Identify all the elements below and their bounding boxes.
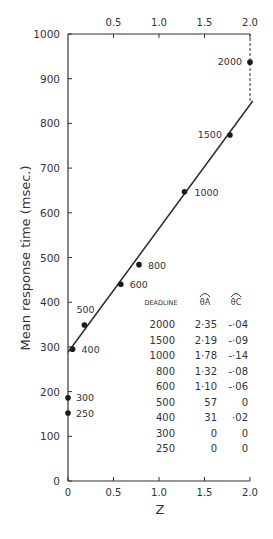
axes: 0100200300400500600700800900100000.51.01…	[33, 17, 258, 498]
x-tick-label: 0.5	[106, 487, 122, 498]
hat-icon	[200, 294, 210, 298]
table-cell-theta-a: 0	[211, 443, 217, 454]
x-tick-label: 2.0	[242, 487, 258, 498]
table-cell-theta-a: 2·35	[195, 319, 217, 330]
table-cell-theta-c: 0	[242, 428, 248, 439]
x-tick-label: 1.0	[151, 487, 167, 498]
table-cell-theta-a: 57	[204, 397, 217, 408]
point-label: 400	[82, 344, 100, 355]
table-cell-theta-c: 0	[242, 397, 248, 408]
table-cell-deadline: 500	[156, 397, 175, 408]
y-tick-label: 200	[40, 386, 60, 398]
data-point	[70, 346, 76, 352]
y-tick-label: 1000	[33, 28, 60, 40]
table-cell-theta-c: -·04	[228, 319, 248, 330]
table-cell-theta-c: -·08	[228, 366, 248, 377]
table-cell-theta-c: -·14	[228, 350, 248, 361]
table-cell-theta-a: 1·32	[195, 366, 217, 377]
point-label: 1500	[198, 129, 222, 140]
y-tick-label: 500	[40, 252, 60, 264]
table-cell-theta-a: 0	[211, 428, 217, 439]
data-point	[118, 282, 124, 288]
top-x-tick-label: 2.0	[242, 17, 258, 28]
point-label: 800	[148, 260, 166, 271]
y-tick-label: 900	[40, 73, 60, 85]
point-label: 300	[76, 392, 94, 403]
table-header-theta: θA	[200, 298, 211, 307]
point-label: 2000	[218, 56, 242, 67]
table-cell-deadline: 400	[156, 412, 175, 423]
table-cell-deadline: 1500	[150, 335, 175, 346]
table-header-deadline: DEADLINE	[144, 299, 177, 307]
table-cell-theta-a: 31	[204, 412, 217, 423]
x-axis-label: Z	[156, 502, 165, 517]
estimates-table: DEADLINEθAθC20002·35-·0415002·19-·091000…	[144, 294, 248, 455]
response-time-chart: 0100200300400500600700800900100000.51.01…	[0, 0, 273, 539]
top-x-tick-label: 1.0	[151, 17, 167, 28]
top-x-tick-label: 1.5	[197, 17, 213, 28]
x-tick-label: 1.5	[197, 487, 213, 498]
table-cell-deadline: 300	[156, 428, 175, 439]
y-tick-label: 800	[40, 117, 60, 129]
data-point	[247, 59, 253, 65]
table-cell-theta-c: -·09	[228, 335, 248, 346]
table-cell-deadline: 2000	[150, 319, 175, 330]
table-cell-deadline: 600	[156, 381, 175, 392]
regression-line	[68, 101, 253, 352]
data-point	[65, 395, 71, 401]
y-tick-label: 600	[40, 207, 60, 219]
table-cell-deadline: 800	[156, 366, 175, 377]
y-tick-label: 100	[40, 430, 60, 442]
point-label: 250	[76, 408, 94, 419]
hat-icon	[231, 294, 241, 298]
data-point	[227, 132, 233, 138]
top-x-tick-label: 0.5	[106, 17, 122, 28]
point-label: 600	[130, 279, 148, 290]
y-tick-label: 300	[40, 341, 60, 353]
table-cell-theta-a: 2·19	[195, 335, 217, 346]
data-point	[136, 262, 142, 268]
table-cell-deadline: 1000	[150, 350, 175, 361]
x-tick-label: 0	[65, 487, 71, 498]
y-axis-label: Mean response time (msec.)	[18, 165, 33, 350]
data-point	[82, 322, 88, 328]
table-cell-theta-c: -·06	[228, 381, 248, 392]
y-tick-label: 0	[53, 475, 60, 487]
table-header-theta: θC	[231, 298, 242, 307]
chart-svg: 0100200300400500600700800900100000.51.01…	[0, 0, 273, 539]
table-cell-theta-a: 1·10	[195, 381, 217, 392]
y-tick-label: 700	[40, 162, 60, 174]
data-point	[182, 189, 188, 195]
table-cell-theta-c: 0	[242, 443, 248, 454]
table-cell-theta-c: ·02	[232, 412, 248, 423]
point-label: 500	[76, 304, 94, 315]
table-cell-deadline: 250	[156, 443, 175, 454]
point-label: 1000	[194, 187, 218, 198]
y-tick-label: 400	[40, 296, 60, 308]
data-point	[65, 410, 71, 416]
table-cell-theta-a: 1·78	[195, 350, 217, 361]
